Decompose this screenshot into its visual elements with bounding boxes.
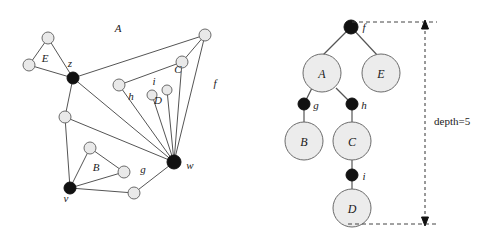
tree-cut-label-i: i [362,170,365,182]
figure-root: A E C D B f g h i z w v [0,0,495,235]
graph-label-g: g [140,163,146,175]
graph-vertex [42,32,54,44]
graph-edge [70,172,124,188]
cut-vertex-z [67,72,79,84]
graph-label-v: v [64,192,69,204]
graph-label-A: A [114,22,122,34]
graph-vertex [162,85,172,95]
tree-node-D: D [333,189,371,227]
tree-cut-node-g [298,98,310,110]
graph-label-z: z [67,57,73,69]
tree-node-C: C [333,122,371,160]
tree-node-B: B [285,122,323,160]
tree-cut-label-f: f [362,21,367,33]
depth-arrow-up-icon [422,20,429,29]
depth-arrow-down-icon [422,217,429,226]
tree-node-label: E [376,67,385,81]
tree-node-E: E [362,54,400,92]
graph-label-w: w [186,159,194,171]
tree-block-nodes: A E B C D [285,54,400,227]
tree-node-label: B [300,135,308,149]
tree-node-label: D [347,202,357,216]
graph-edge [119,62,182,85]
graph-label-E: E [41,52,49,64]
graph-label-B: B [93,161,100,173]
graph-vertex [59,111,71,123]
depth-label: depth=5 [434,115,471,127]
graph-label-i: i [152,75,155,87]
graph-vertex [128,187,140,199]
block-cut-tree-panel: A E B C D f g h [285,20,471,227]
graph-vertex [199,29,211,41]
tree-cut-label-g: g [313,99,319,111]
graph-label-f: f [213,77,218,89]
graph-vertex [84,142,96,154]
graph-panel: A E C D B f g h i z w v [23,22,218,204]
graph-vertex [23,59,35,71]
cut-vertex-w [167,155,181,169]
graph-vertex [118,166,130,178]
graph-label-D: D [153,94,162,106]
graph-edge [65,117,70,188]
graph-edge [70,148,90,188]
tree-cut-label-h: h [361,99,367,111]
tree-node-A: A [303,54,341,92]
tree-node-label: A [317,67,326,81]
tree-cut-node-i [346,169,358,181]
graph-edge [70,188,134,193]
graph-vertex [113,79,125,91]
tree-node-label: C [348,135,357,149]
tree-cut-node-h [346,98,358,110]
graph-label-h: h [128,90,134,102]
graph-label-C: C [174,63,182,75]
